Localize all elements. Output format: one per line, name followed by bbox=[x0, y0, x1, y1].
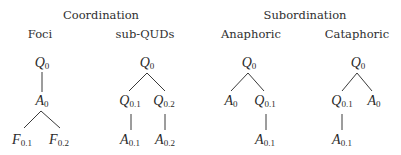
group-heading-coordination: Coordination bbox=[63, 8, 140, 22]
node-a01: A0.1 bbox=[119, 132, 140, 148]
edge bbox=[147, 73, 165, 91]
node-q0: Q0 bbox=[140, 55, 155, 71]
node-a02: A0.2 bbox=[154, 132, 175, 148]
edge bbox=[357, 73, 372, 91]
edge bbox=[24, 111, 41, 128]
node-q02: Q0.2 bbox=[153, 93, 174, 109]
tree-anaphoric: Q0 A0 Q0.1 A0.1 bbox=[223, 55, 275, 148]
node-q0: Q0 bbox=[35, 55, 50, 71]
edge bbox=[41, 111, 60, 128]
node-f02: F0.2 bbox=[48, 132, 69, 148]
tree-label-sub-quds: sub-QUDs bbox=[116, 27, 175, 41]
edge bbox=[129, 73, 147, 91]
node-a01: A0.1 bbox=[331, 132, 352, 148]
edge bbox=[342, 73, 357, 91]
tree-label-anaphoric: Anaphoric bbox=[220, 27, 281, 41]
qud-tree-diagram: Coordination Subordination Foci sub-QUDs… bbox=[0, 0, 401, 155]
node-a0: A0 bbox=[34, 93, 49, 109]
tree-sub-quds: Q0 Q0.1 Q0.2 A0.1 A0.2 bbox=[119, 55, 175, 148]
node-q0: Q0 bbox=[351, 55, 366, 71]
node-a01: A0.1 bbox=[254, 132, 275, 148]
node-q01: Q0.1 bbox=[331, 93, 352, 109]
node-q0: Q0 bbox=[242, 55, 257, 71]
tree-label-foci: Foci bbox=[28, 27, 53, 41]
node-f01: F0.1 bbox=[11, 132, 32, 148]
node-q01: Q0.1 bbox=[119, 93, 140, 109]
node-a0: A0 bbox=[223, 93, 238, 109]
group-heading-subordination: Subordination bbox=[264, 8, 348, 22]
edge bbox=[248, 73, 264, 91]
tree-label-cataphoric: Cataphoric bbox=[325, 27, 389, 41]
node-q01: Q0.1 bbox=[254, 93, 275, 109]
node-a0: A0 bbox=[366, 93, 381, 109]
edge bbox=[231, 73, 248, 91]
tree-foci: Q0 A0 F0.1 F0.2 bbox=[11, 55, 69, 148]
tree-cataphoric: Q0 Q0.1 A0 A0.1 bbox=[331, 55, 381, 148]
